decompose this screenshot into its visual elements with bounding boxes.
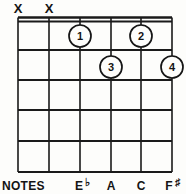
note-string-3-letter: E — [75, 179, 83, 193]
note-string-3: E ♭ — [75, 176, 90, 193]
mute-mark-string-2: X — [45, 1, 54, 16]
finger-dot-2[interactable]: 2 — [130, 25, 152, 47]
note-string-6-accidental: ♯ — [175, 176, 181, 188]
finger-dot-2-label: 2 — [138, 30, 144, 42]
finger-dots: 1 2 3 4 — [69, 25, 183, 78]
fret-lines — [18, 50, 172, 172]
finger-dot-3-label: 3 — [108, 61, 114, 73]
notes-row-label: NOTES — [2, 179, 45, 193]
note-string-4: A — [107, 179, 116, 193]
mute-marks: X X — [14, 1, 54, 16]
finger-dot-1-label: 1 — [77, 30, 83, 42]
finger-dot-4[interactable]: 4 — [161, 56, 183, 78]
note-string-4-letter: A — [107, 179, 116, 193]
note-string-5: C — [137, 179, 146, 193]
note-string-3-accidental: ♭ — [85, 176, 90, 188]
finger-dot-3[interactable]: 3 — [100, 56, 122, 78]
chord-diagram: X X 1 2 3 4 NOTES — [0, 0, 186, 194]
note-string-6-letter: F — [165, 179, 172, 193]
mute-mark-string-1: X — [14, 1, 23, 16]
nut — [18, 18, 172, 22]
note-string-6: F ♯ — [165, 176, 181, 193]
finger-dot-1[interactable]: 1 — [69, 25, 91, 47]
notes-row: NOTES E ♭ A C F ♯ — [2, 176, 181, 193]
note-string-5-letter: C — [137, 179, 146, 193]
finger-dot-4-label: 4 — [169, 61, 176, 73]
